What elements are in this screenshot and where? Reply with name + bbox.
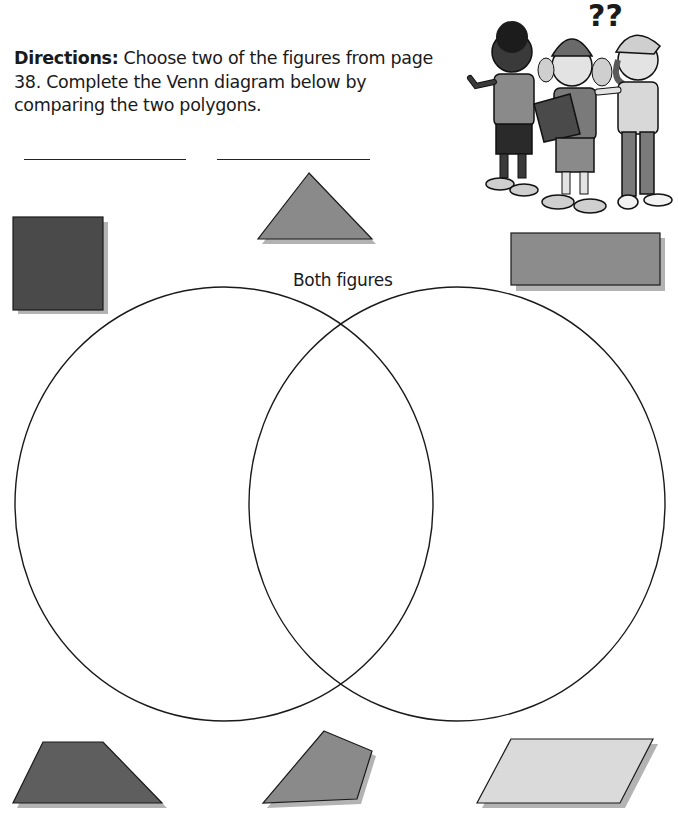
kids-illustration: ??	[462, 0, 678, 222]
figure-triangle[interactable]	[258, 173, 376, 244]
venn-left-circle[interactable]	[15, 287, 433, 721]
venn-center-label: Both figures	[293, 270, 393, 290]
figure-rectangle[interactable]	[511, 233, 665, 291]
kid-middle-figure	[534, 39, 612, 213]
figure-square[interactable]	[13, 217, 108, 314]
kid-left-figure	[470, 21, 538, 196]
figure-parallelogram[interactable]	[477, 739, 658, 808]
venn-right-circle[interactable]	[249, 287, 665, 721]
figure-quadrilateral[interactable]	[263, 731, 376, 808]
question-marks-icon: ??	[588, 0, 623, 33]
figure-trapezoid[interactable]	[13, 742, 167, 808]
